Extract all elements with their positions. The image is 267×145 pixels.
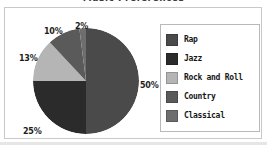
legend-swatch-icon [166,53,178,65]
scan-bottom-edge [0,142,267,145]
legend-item: Country [166,87,255,106]
legend-item-label: Rap [184,36,198,44]
legend-swatch-icon [166,34,178,46]
chart-legend: RapJazzRock and RollCountryClassical [160,24,260,132]
legend-swatch-icon [166,72,178,84]
pie-svg [33,28,139,134]
slice-label-classical: 2% [75,22,88,31]
slice-label-jazz: 25% [23,127,42,136]
slice-label-rap: 50% [140,81,159,90]
legend-item-label: Country [184,93,216,101]
pie-slice-rap [86,28,139,134]
pie-chart-figure: Music Preferences 2% 10% 13% 25% 50% Rap… [0,0,267,145]
pie-slices [33,28,139,134]
legend-item-label: Rock and Roll [184,74,243,82]
pie-plot-area: 2% 10% 13% 25% 50% [13,17,163,145]
slice-label-country: 10% [44,27,63,36]
legend-item: Rap [166,30,255,49]
chart-title-fragment: Music Preferences [0,0,267,2]
legend-item: Classical [166,106,255,125]
legend-item-label: Classical [184,112,225,120]
pie-graphic [33,28,139,134]
legend-item: Rock and Roll [166,68,255,87]
legend-swatch-icon [166,91,178,103]
legend-item-label: Jazz [184,55,202,63]
slice-label-rock-and-roll: 13% [19,54,38,63]
legend-swatch-icon [166,110,178,122]
plot-frame: 2% 10% 13% 25% 50% RapJazzRock and RollC… [4,7,262,139]
legend-item: Jazz [166,49,255,68]
